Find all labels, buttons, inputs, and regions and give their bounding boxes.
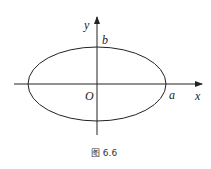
- a-label: a: [169, 88, 175, 102]
- b-label: b: [102, 33, 108, 47]
- y-axis-label: y: [83, 18, 90, 32]
- figure-caption: 图 6.6: [91, 148, 117, 158]
- origin-label: O: [85, 89, 94, 103]
- ellipse-diagram: y b O a x 图 6.6: [0, 0, 211, 169]
- x-axis-label: x: [194, 89, 201, 103]
